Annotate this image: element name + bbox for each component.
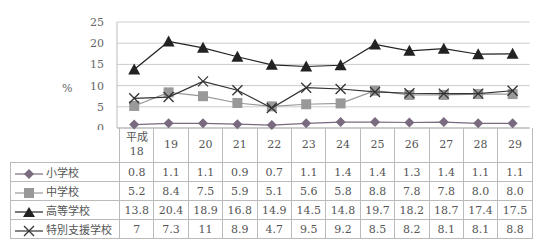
table-cell: 5.9 [223, 182, 257, 201]
y-tick-label: 5 [97, 101, 104, 114]
series-name: 特別支援学校 [46, 224, 112, 237]
category-header: 19 [154, 128, 188, 163]
category-header: 20 [188, 128, 222, 163]
table-cell: 8.0 [463, 182, 497, 201]
diamond-marker [439, 117, 449, 127]
table-cell: 8.4 [154, 182, 188, 201]
triangle-marker [438, 43, 450, 54]
diamond-marker [473, 118, 483, 128]
y-tick-label: 15 [90, 58, 104, 71]
table-cell: 7.8 [395, 182, 429, 201]
table-cell: 18.2 [395, 201, 429, 220]
table-cell: 5.1 [257, 182, 291, 201]
series-line [134, 122, 512, 125]
y-tick-label: 10 [90, 80, 104, 93]
legend-entry: 小学校 [11, 163, 120, 182]
table-cell: 9.2 [326, 220, 360, 239]
table-cell: 5.8 [326, 182, 360, 201]
table-cell: 1.4 [429, 163, 463, 182]
table-cell: 1.3 [395, 163, 429, 182]
table-cell: 5.6 [291, 182, 325, 201]
table-cell: 8.1 [463, 220, 497, 239]
series-name: 小学校 [46, 167, 79, 180]
triangle-legend-icon [15, 205, 46, 218]
table-row: 中学校5.28.47.55.95.15.65.88.87.87.88.08.0 [11, 182, 533, 201]
table-cell: 1.1 [291, 163, 325, 182]
table-cell: 0.9 [223, 163, 257, 182]
category-header: 25 [360, 128, 394, 163]
table-cell: 18.7 [429, 201, 463, 220]
table-cell: 16.8 [223, 201, 257, 220]
table-cell: 1.1 [154, 163, 188, 182]
table-cell: 11 [188, 220, 222, 239]
table-cell: 14.9 [257, 201, 291, 220]
legend-entry: 高等学校 [11, 201, 120, 220]
square-marker [301, 99, 311, 109]
table-row: 小学校0.81.11.10.90.71.11.41.41.31.41.11.1 [11, 163, 533, 182]
table-cell: 18.9 [188, 201, 222, 220]
diamond-marker [301, 118, 311, 128]
series-line [134, 42, 512, 70]
diamond-marker [404, 117, 414, 127]
y-tick-label: 25 [90, 16, 104, 29]
table-row: 特別支援学校77.3118.94.79.59.28.58.28.18.18.8 [11, 220, 533, 239]
table-cell: 8.0 [498, 182, 532, 201]
table-cell: 8.8 [498, 220, 532, 239]
diamond-marker [370, 117, 380, 127]
category-header: 24 [326, 128, 360, 163]
category-header: 22 [257, 128, 291, 163]
table-cell: 7.5 [188, 182, 222, 201]
category-header: 平成18 [120, 128, 154, 163]
table-cell: 8.1 [429, 220, 463, 239]
table-cell: 14.8 [326, 201, 360, 220]
table-cell: 20.4 [154, 201, 188, 220]
triangle-marker [369, 38, 381, 49]
line-chart: %0510152025 [0, 0, 535, 130]
table-cell: 1.4 [360, 163, 394, 182]
diamond-marker [198, 118, 208, 128]
triangle-marker [128, 63, 140, 74]
table-cell: 7 [120, 220, 154, 239]
diamond-marker [336, 117, 346, 127]
table-cell: 0.8 [120, 163, 154, 182]
data-table: 平成181920212223242526272829小学校0.81.11.10.… [10, 128, 533, 239]
table-cell: 7.8 [429, 182, 463, 201]
category-header: 29 [498, 128, 532, 163]
square-marker [439, 90, 449, 100]
table-cell: 17.5 [498, 201, 532, 220]
table-cell: 14.5 [291, 201, 325, 220]
table-cell: 7.3 [154, 220, 188, 239]
table-cell: 8.9 [223, 220, 257, 239]
table-cell: 1.4 [326, 163, 360, 182]
series-line [134, 91, 512, 107]
table-cell: 19.7 [360, 201, 394, 220]
table-cell: 1.1 [498, 163, 532, 182]
category-header: 23 [291, 128, 325, 163]
y-tick-label: 20 [90, 37, 104, 50]
diamond-legend-icon [15, 167, 46, 180]
category-header: 28 [463, 128, 497, 163]
table-cell: 1.1 [188, 163, 222, 182]
table-cell: 9.5 [291, 220, 325, 239]
table-cell: 4.7 [257, 220, 291, 239]
square-marker [198, 91, 208, 101]
table-row: 高等学校13.820.418.916.814.914.514.819.718.2… [11, 201, 533, 220]
series-name: 高等学校 [46, 205, 90, 218]
square-marker [232, 98, 242, 108]
square-legend-icon [15, 186, 46, 199]
table-cell: 8.5 [360, 220, 394, 239]
table-cell: 0.7 [257, 163, 291, 182]
y-axis-label: % [62, 82, 72, 95]
legend-entry: 特別支援学校 [11, 220, 120, 239]
category-header: 26 [395, 128, 429, 163]
x-legend-icon [15, 224, 46, 237]
square-marker [404, 90, 414, 100]
table-cell: 5.2 [120, 182, 154, 201]
table-cell: 17.4 [463, 201, 497, 220]
diamond-marker [164, 118, 174, 128]
table-cell: 8.8 [360, 182, 394, 201]
table-cell: 13.8 [120, 201, 154, 220]
square-marker [370, 86, 380, 96]
series-name: 中学校 [46, 186, 79, 199]
triangle-marker [163, 36, 175, 47]
